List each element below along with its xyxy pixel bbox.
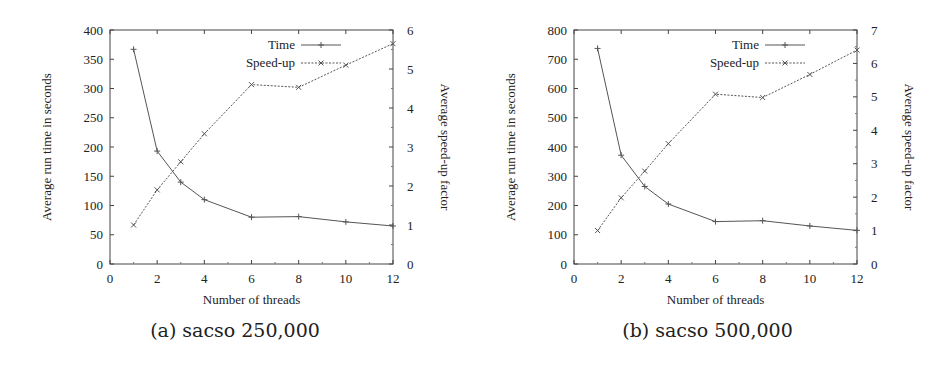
speedup-line <box>134 44 393 225</box>
cross-marker-icon <box>642 169 647 174</box>
x-tick-label: 2 <box>618 271 625 286</box>
cross-marker-icon <box>178 159 183 164</box>
plus-marker-icon <box>713 219 719 225</box>
plus-marker-icon <box>782 42 788 48</box>
plus-marker-icon <box>807 223 813 229</box>
y-tick-label: 250 <box>84 110 104 125</box>
chart-b: 0246810120100200300400500600700800012345… <box>470 0 945 320</box>
y-tick-label: 200 <box>84 140 104 155</box>
y2-tick-label: 0 <box>407 257 414 272</box>
cross-marker-icon <box>760 95 765 100</box>
y2-tick-label: 1 <box>407 218 414 233</box>
y-tick-label: 300 <box>548 169 568 184</box>
plus-marker-icon <box>296 214 302 220</box>
y2-tick-label: 1 <box>871 223 878 238</box>
figure-a: 0246810120501001502002503003504000123456… <box>0 0 470 367</box>
cross-marker-icon <box>666 141 671 146</box>
speedup-line <box>598 50 857 231</box>
x-axis-label: Number of threads <box>667 292 764 307</box>
caption-b: (b) sacso 500,000 <box>470 319 945 341</box>
y2-axis-label: Average speed-up factor <box>438 84 453 211</box>
y-tick-label: 0 <box>97 257 104 272</box>
y-tick-label: 500 <box>548 110 568 125</box>
caption-a: (a) sacso 250,000 <box>0 319 470 341</box>
y2-tick-label: 5 <box>871 89 878 104</box>
time-line <box>598 48 857 230</box>
cross-marker-icon <box>131 223 136 228</box>
x-tick-label: 12 <box>387 271 400 286</box>
y2-tick-label: 4 <box>871 123 878 138</box>
y-tick-label: 150 <box>84 169 104 184</box>
y2-axis-label: Average speed-up factor <box>902 84 917 211</box>
plus-marker-icon <box>343 219 349 225</box>
y-tick-label: 600 <box>548 81 568 96</box>
cross-marker-icon <box>595 228 600 233</box>
x-tick-label: 0 <box>107 271 114 286</box>
cross-marker-icon <box>155 187 160 192</box>
plus-marker-icon <box>854 227 860 233</box>
y-tick-label: 400 <box>548 140 568 155</box>
chart-a: 0246810120501001502002503003504000123456… <box>0 0 470 320</box>
y2-tick-label: 2 <box>871 190 878 205</box>
y-tick-label: 0 <box>561 257 568 272</box>
cross-marker-icon <box>249 82 254 87</box>
y2-tick-label: 3 <box>407 140 414 155</box>
y-tick-label: 800 <box>548 23 568 38</box>
x-tick-label: 8 <box>295 271 302 286</box>
legend-time-label: Time <box>268 37 295 52</box>
plus-marker-icon <box>390 223 396 229</box>
y-tick-label: 300 <box>84 81 104 96</box>
x-tick-label: 2 <box>154 271 161 286</box>
y-axis-label: Average run time in seconds <box>503 73 518 221</box>
plus-marker-icon <box>760 218 766 224</box>
legend-speedup-label: Speed-up <box>710 55 759 70</box>
x-tick-label: 6 <box>712 271 719 286</box>
cross-marker-icon <box>619 195 624 200</box>
legend-time-label: Time <box>732 37 759 52</box>
y-tick-label: 700 <box>548 52 568 67</box>
x-axis-label: Number of threads <box>203 292 300 307</box>
x-tick-label: 4 <box>201 271 208 286</box>
y-tick-label: 350 <box>84 52 104 67</box>
legend-speedup-label: Speed-up <box>246 55 295 70</box>
y-tick-label: 200 <box>548 198 568 213</box>
y2-tick-label: 6 <box>407 23 414 38</box>
x-tick-label: 10 <box>339 271 352 286</box>
x-tick-label: 0 <box>571 271 578 286</box>
plus-marker-icon <box>131 46 137 52</box>
x-tick-label: 6 <box>248 271 255 286</box>
y-tick-label: 400 <box>84 23 104 38</box>
plus-marker-icon <box>595 45 601 51</box>
plus-marker-icon <box>249 214 255 220</box>
y2-tick-label: 4 <box>407 101 414 116</box>
y2-tick-label: 6 <box>871 56 878 71</box>
y2-tick-label: 5 <box>407 62 414 77</box>
y2-tick-label: 2 <box>407 179 414 194</box>
y-tick-label: 50 <box>90 227 103 242</box>
y2-tick-label: 3 <box>871 156 878 171</box>
y2-tick-label: 7 <box>871 23 878 38</box>
x-tick-label: 12 <box>851 271 864 286</box>
x-tick-label: 8 <box>759 271 766 286</box>
plus-marker-icon <box>318 42 324 48</box>
y-axis-label: Average run time in seconds <box>39 73 54 221</box>
figure-b: 0246810120100200300400500600700800012345… <box>470 0 945 367</box>
cross-marker-icon <box>202 131 207 136</box>
time-line <box>134 49 393 226</box>
y2-tick-label: 0 <box>871 257 878 272</box>
x-tick-label: 10 <box>803 271 816 286</box>
y-tick-label: 100 <box>548 227 568 242</box>
y-tick-label: 100 <box>84 198 104 213</box>
x-tick-label: 4 <box>665 271 672 286</box>
cross-marker-icon <box>343 63 348 68</box>
cross-marker-icon <box>807 72 812 77</box>
